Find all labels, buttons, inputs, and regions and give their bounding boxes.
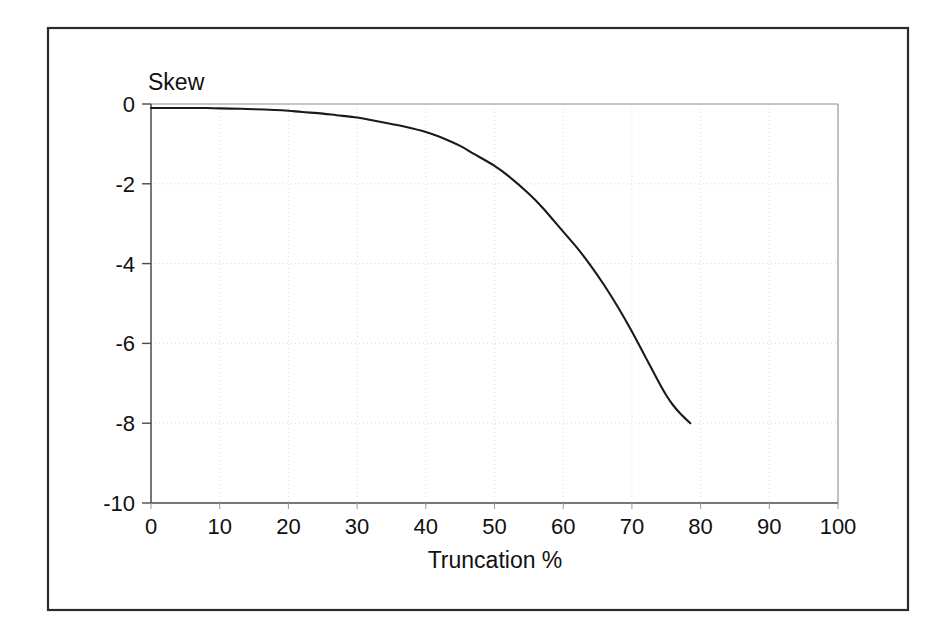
x-tick-label: 30 xyxy=(345,514,369,539)
y-tick-label: -2 xyxy=(115,172,135,197)
x-tick-label: 40 xyxy=(414,514,438,539)
skew-truncation-chart: 0-2-4-6-8-10 0102030405060708090100 Skew… xyxy=(0,0,940,640)
y-tick-label: 0 xyxy=(123,92,135,117)
y-tick-label: -4 xyxy=(115,252,135,277)
y-tick-label: -8 xyxy=(115,411,135,436)
figure-container: 0-2-4-6-8-10 0102030405060708090100 Skew… xyxy=(0,0,940,640)
y-tick-label: -6 xyxy=(115,331,135,356)
x-tick-label: 50 xyxy=(482,514,506,539)
x-tick-label: 100 xyxy=(820,514,857,539)
x-tick-label: 80 xyxy=(688,514,712,539)
x-tick-label: 0 xyxy=(145,514,157,539)
y-axis-title: Skew xyxy=(148,69,205,95)
x-tick-label: 70 xyxy=(620,514,644,539)
x-tick-label: 10 xyxy=(207,514,231,539)
x-tick-label: 60 xyxy=(551,514,575,539)
x-tick-label: 20 xyxy=(276,514,300,539)
x-axis-title: Truncation % xyxy=(428,547,563,573)
y-tick-label: -10 xyxy=(103,491,135,516)
x-tick-label: 90 xyxy=(757,514,781,539)
